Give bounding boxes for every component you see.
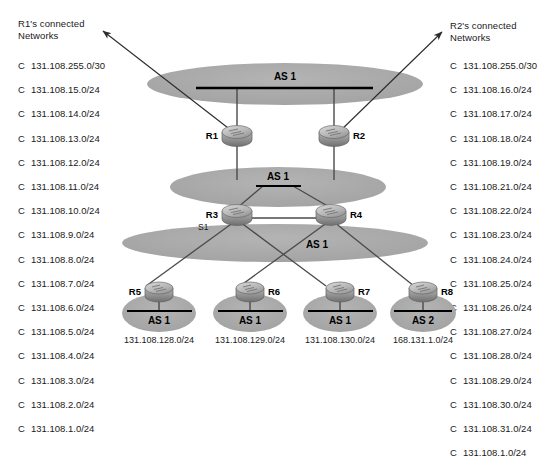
- network-topology: R1 R2 R3 R4 R5: [0, 0, 560, 472]
- cloud-label-leaf-2: AS 1: [239, 315, 262, 326]
- router-label-r3: R3: [206, 209, 218, 220]
- cloud-label-as1-bottom: AS 1: [306, 239, 329, 250]
- router-r3[interactable]: [222, 205, 252, 226]
- router-r1[interactable]: [222, 126, 252, 147]
- diagram-canvas: R1's connected Networks C131.108.255.0/3…: [0, 0, 560, 472]
- network-label-leaf-3: 131.108.130.0/24: [305, 335, 375, 345]
- cloud-label-leaf-4: AS 2: [412, 315, 435, 326]
- cloud-label-leaf-3: AS 1: [329, 315, 352, 326]
- router-label-r4: R4: [350, 209, 363, 220]
- router-label-r7: R7: [358, 286, 370, 297]
- link-label-s1: S1: [198, 222, 209, 232]
- router-label-r6: R6: [268, 286, 280, 297]
- router-label-r2: R2: [353, 130, 365, 141]
- network-label-leaf-4: 168.131.1.0/24: [393, 335, 453, 345]
- router-label-r8: R8: [441, 286, 453, 297]
- cloud-as1-top: [147, 63, 423, 105]
- network-label-leaf-2: 131.108.129.0/24: [215, 335, 285, 345]
- links-leaf-segment: [159, 297, 423, 312]
- router-r2[interactable]: [319, 126, 349, 147]
- cloud-label-as1-top: AS 1: [274, 71, 297, 82]
- router-r4[interactable]: [316, 205, 346, 226]
- router-r5[interactable]: [145, 282, 173, 302]
- cloud-as1-bottom: [122, 224, 428, 262]
- router-r7[interactable]: [326, 282, 354, 302]
- router-r8[interactable]: [409, 282, 437, 302]
- router-label-r5: R5: [129, 286, 142, 297]
- router-r6[interactable]: [236, 282, 264, 302]
- cloud-label-leaf-1: AS 1: [148, 315, 171, 326]
- network-label-leaf-1: 131.108.128.0/24: [124, 335, 194, 345]
- cloud-label-as1-middle: AS 1: [267, 171, 290, 182]
- router-label-r1: R1: [206, 130, 219, 141]
